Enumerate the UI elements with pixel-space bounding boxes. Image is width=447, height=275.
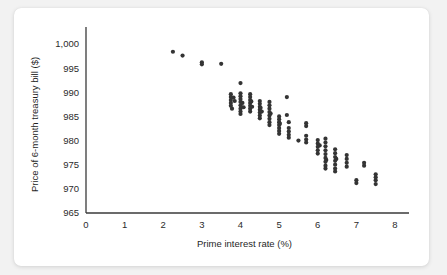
x-tick-label: 4 [238, 219, 243, 230]
data-point [324, 158, 328, 162]
y-axis-title: Price of 6-month treasury bill ($) [29, 57, 40, 192]
scatter-plot: 9659709759809859909951,000 012345678 Pri… [14, 8, 429, 266]
chart-svg: 9659709759809859909951,000 012345678 Pri… [14, 8, 429, 266]
data-point [249, 99, 253, 103]
y-tick-label: 970 [63, 183, 79, 194]
data-point [267, 123, 271, 127]
data-point [374, 178, 378, 182]
x-axis-title: Prime interest rate (%) [197, 238, 292, 249]
data-point [333, 151, 337, 155]
data-point [278, 122, 282, 126]
data-point [345, 165, 349, 169]
y-tick-label: 980 [63, 135, 79, 146]
data-point [248, 110, 252, 114]
data-point [296, 138, 300, 142]
data-point [238, 81, 242, 85]
y-axis-tick-labels: 9659709759809859909951,000 [55, 38, 79, 218]
data-point [258, 106, 262, 110]
data-point [219, 62, 223, 66]
data-point [323, 137, 327, 141]
data-point [171, 50, 175, 54]
data-point [285, 95, 289, 99]
data-point [285, 113, 289, 117]
data-point [316, 152, 320, 156]
data-point [304, 140, 308, 144]
data-point [238, 112, 242, 116]
data-point [323, 144, 327, 148]
x-tick-label: 3 [199, 219, 204, 230]
x-tick-label: 1 [122, 219, 127, 230]
data-point [334, 157, 338, 161]
y-tick-label: 1,000 [55, 38, 79, 49]
data-point [354, 181, 358, 185]
data-point [241, 105, 245, 109]
data-point [260, 110, 264, 114]
data-point [287, 136, 291, 140]
data-point [333, 169, 337, 173]
figure-card: 9659709759809859909951,000 012345678 Pri… [14, 8, 429, 266]
data-point [318, 143, 322, 147]
data-point [233, 99, 237, 103]
data-point [250, 105, 254, 109]
data-point [277, 132, 281, 136]
data-point [240, 101, 244, 105]
data-point [362, 164, 366, 168]
data-point [323, 148, 327, 152]
data-point [269, 111, 273, 115]
y-tick-label: 975 [63, 159, 79, 170]
x-axis-tick-labels: 012345678 [83, 219, 397, 230]
data-point [345, 153, 349, 157]
x-tick-label: 6 [315, 219, 320, 230]
y-tick-label: 965 [63, 207, 79, 218]
x-tick-label: 7 [354, 219, 359, 230]
data-point [180, 53, 184, 57]
x-tick-label: 0 [83, 219, 88, 230]
data-point [230, 107, 234, 111]
data-point [333, 163, 337, 167]
data-point [323, 140, 327, 144]
data-point [304, 134, 308, 138]
data-point [374, 182, 378, 186]
data-point-group [171, 50, 378, 187]
y-tick-label: 985 [63, 111, 79, 122]
data-point [287, 120, 291, 124]
data-point [258, 116, 262, 120]
data-point [345, 161, 349, 165]
y-tick-label: 995 [63, 63, 79, 74]
data-point [200, 62, 204, 66]
x-tick-label: 2 [161, 219, 166, 230]
data-point [345, 157, 349, 161]
data-point [304, 124, 308, 128]
data-point [323, 152, 327, 156]
x-tick-label: 8 [392, 219, 397, 230]
x-tick-label: 5 [276, 219, 281, 230]
data-point [323, 166, 327, 170]
y-tick-label: 990 [63, 87, 79, 98]
data-point [333, 147, 337, 151]
